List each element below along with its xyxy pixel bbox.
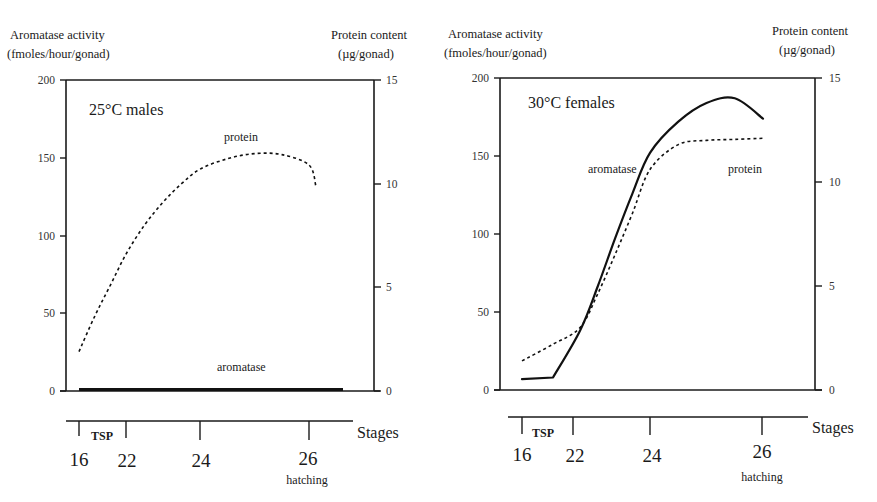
- stage-tick-label: 26: [753, 441, 772, 462]
- left-y-ticks: 0 50 100 150 200: [38, 74, 66, 397]
- tick-label: 5: [829, 280, 835, 292]
- tick-label: 0: [49, 385, 55, 397]
- stage-tick-label: 22: [118, 450, 137, 471]
- tick-label: 0: [829, 384, 835, 396]
- panel-females: Aromatase activity (fmoles/hour/gonad) P…: [444, 24, 854, 484]
- stage-axis: TSP 16 22 24 26 hatching Stages: [508, 417, 854, 484]
- stage-tick-label: 22: [566, 445, 585, 466]
- tick-label: 100: [472, 228, 490, 240]
- left-axis-title-line2: (fmoles/hour/gonad): [7, 47, 110, 61]
- right-axis-title-line2: (µg/gonad): [338, 47, 394, 61]
- protein-label: protein: [728, 162, 762, 176]
- aromatase-label: aromatase: [217, 360, 266, 374]
- stage-tick-label: 16: [70, 449, 89, 470]
- tick-label: 5: [386, 281, 392, 293]
- left-axis-title-line2: (fmoles/hour/gonad): [444, 46, 547, 60]
- panel-males: Aromatase activity (fmoles/hour/gonad) P…: [7, 28, 408, 487]
- aromatase-label: aromatase: [588, 162, 637, 176]
- tick-label: 0: [483, 384, 489, 396]
- right-axis-title-line2: (µg/gonad): [779, 43, 835, 57]
- panel-title: 30°C females: [528, 94, 615, 111]
- left-axis-title-line1: Aromatase activity: [10, 28, 106, 42]
- tick-label: 200: [38, 74, 56, 86]
- tick-label: 15: [386, 74, 398, 86]
- aromatase-curve: [522, 97, 763, 379]
- tick-label: 100: [38, 230, 56, 242]
- tick-label: 10: [829, 176, 841, 188]
- stage-tick-label: 26: [299, 448, 318, 469]
- stages-axis-label: Stages: [357, 424, 399, 442]
- right-axis-title-line1: Protein content: [331, 28, 408, 42]
- right-y-ticks: 0 5 10 15: [374, 74, 398, 397]
- panel-title: 25°C males: [89, 101, 163, 118]
- stage-tick-label: 24: [192, 450, 212, 471]
- left-y-ticks: 0 50 100 150 200: [472, 72, 500, 396]
- tick-label: 0: [386, 385, 392, 397]
- tick-label: 15: [829, 72, 841, 84]
- stage-tick-label: 16: [513, 444, 532, 465]
- right-y-ticks: 0 5 10 15: [815, 72, 841, 396]
- tick-label: 50: [478, 306, 490, 318]
- protein-curve: [79, 153, 316, 351]
- tick-label: 10: [386, 178, 398, 190]
- stage-axis: TSP 16 22 24 26 hatching Stages: [66, 421, 399, 487]
- tick-label: 50: [44, 307, 56, 319]
- tsp-label: TSP: [91, 429, 113, 443]
- protein-label: protein: [224, 130, 258, 144]
- figure: Aromatase activity (fmoles/hour/gonad) P…: [0, 0, 877, 502]
- hatching-label: hatching: [741, 470, 782, 484]
- right-axis-title-line1: Protein content: [772, 24, 849, 38]
- protein-curve: [522, 138, 763, 361]
- tick-label: 200: [472, 72, 490, 84]
- hatching-label: hatching: [286, 473, 327, 487]
- tick-label: 150: [472, 150, 490, 162]
- tsp-label: TSP: [532, 426, 554, 440]
- left-axis-title-line1: Aromatase activity: [448, 27, 544, 41]
- stage-tick-label: 24: [643, 445, 663, 466]
- stages-axis-label: Stages: [812, 419, 854, 437]
- tick-label: 150: [38, 152, 56, 164]
